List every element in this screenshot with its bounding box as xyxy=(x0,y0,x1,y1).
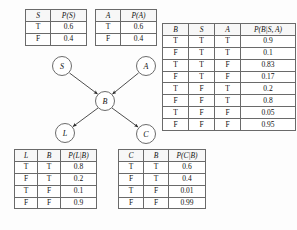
node-a-label: A xyxy=(143,62,149,71)
cell-prob: 0.8 xyxy=(61,161,97,173)
cell-prob: 0.6 xyxy=(51,21,87,33)
cell-b: T xyxy=(163,83,189,95)
cell-b: F xyxy=(163,95,189,107)
cell-prob: 0.83 xyxy=(241,59,296,71)
cell-prob: 0.4 xyxy=(121,33,157,45)
cell-s: F xyxy=(189,119,215,131)
table-row: F T F 0.17 xyxy=(163,71,296,83)
prior-table-s: S P(S) T 0.6 F 0.4 xyxy=(25,9,87,46)
column-header-a: A xyxy=(96,10,121,22)
cell-b: F xyxy=(163,119,189,131)
figure-canvas: S A B L C S P(S) T 0 xyxy=(0,0,297,230)
cell-l: T xyxy=(15,185,38,197)
cell-s: T xyxy=(189,47,215,59)
cell-b: T xyxy=(38,173,61,185)
cell-b: F xyxy=(163,71,189,83)
cell-s: T xyxy=(189,35,215,47)
cell-prob: 0.01 xyxy=(169,185,206,197)
cell-l: F xyxy=(15,173,38,185)
cell-prob: 0.05 xyxy=(241,107,296,119)
cpt-table-l: L B P(L|B) T T 0.8 F T 0.2 T F 0.1 F xyxy=(14,149,97,209)
cell-prob: 0.99 xyxy=(169,197,206,209)
cpt-table-b: B S A P(B|S, A) T T T 0.9 F T T 0.1 T T xyxy=(162,23,296,131)
table-row: T F 0.1 xyxy=(15,185,97,197)
cell-a: F xyxy=(215,71,241,83)
cell-prob: 0.4 xyxy=(169,173,206,185)
column-header-plb: P(L|B) xyxy=(61,150,97,162)
cell-s: T xyxy=(189,59,215,71)
cell-c: T xyxy=(119,185,144,197)
edge-s-to-b xyxy=(70,73,98,94)
cell-prob: 0.1 xyxy=(241,47,296,59)
column-header-b: B xyxy=(144,150,169,162)
column-header-a: A xyxy=(215,24,241,36)
cell-prob: 0.6 xyxy=(121,21,157,33)
table-row: T 0.6 xyxy=(26,21,87,33)
cell-b: T xyxy=(163,59,189,71)
column-header-b: B xyxy=(163,24,189,36)
cell-b: F xyxy=(38,185,61,197)
node-c[interactable]: C xyxy=(137,125,156,144)
edge-a-to-b xyxy=(113,73,139,94)
cell-c: F xyxy=(119,197,144,209)
cell-c: F xyxy=(119,173,144,185)
table-row: F F F 0.95 xyxy=(163,119,296,131)
cell-c: T xyxy=(119,161,144,173)
cell-s: F xyxy=(189,107,215,119)
column-header-pbsa: P(B|S, A) xyxy=(241,24,296,36)
cell-prob: 0.17 xyxy=(241,71,296,83)
cell-b: T xyxy=(144,161,169,173)
table-row: T F T 0.2 xyxy=(163,83,296,95)
node-l[interactable]: L xyxy=(56,124,75,143)
node-c-label: C xyxy=(143,130,149,139)
column-header-pa: P(A) xyxy=(121,10,157,22)
table-header-row: C B P(C|B) xyxy=(119,150,206,162)
table-row: T 0.6 xyxy=(96,21,157,33)
table-header-row: L B P(L|B) xyxy=(15,150,97,162)
table-row: T T 0.8 xyxy=(15,161,97,173)
column-header-s: S xyxy=(26,10,51,22)
cell-a: T xyxy=(215,47,241,59)
table-row: T T T 0.9 xyxy=(163,35,296,47)
cell-prob: 0.9 xyxy=(61,197,97,209)
table-header-row: B S A P(B|S, A) xyxy=(163,24,296,36)
cell-s: F xyxy=(189,95,215,107)
cell-prob: 0.2 xyxy=(61,173,97,185)
cell-a: F xyxy=(215,59,241,71)
node-b[interactable]: B xyxy=(96,92,115,111)
cell-a: T xyxy=(96,21,121,33)
cell-b: T xyxy=(144,173,169,185)
node-s-label: S xyxy=(60,62,64,71)
column-header-ps: P(S) xyxy=(51,10,87,22)
cell-a: F xyxy=(96,33,121,45)
cell-a: T xyxy=(215,95,241,107)
column-header-b: B xyxy=(38,150,61,162)
cell-prob: 0.1 xyxy=(61,185,97,197)
table-row: F 0.4 xyxy=(96,33,157,45)
cell-prob: 0.2 xyxy=(241,83,296,95)
cell-s: F xyxy=(189,83,215,95)
cell-b: T xyxy=(163,107,189,119)
table-row: F T T 0.1 xyxy=(163,47,296,59)
cell-b: F xyxy=(163,47,189,59)
table-row: F F T 0.8 xyxy=(163,95,296,107)
column-header-s: S xyxy=(189,24,215,36)
node-b-label: B xyxy=(103,97,108,106)
cell-prob: 0.95 xyxy=(241,119,296,131)
cell-l: F xyxy=(15,197,38,209)
table-row: F T 0.4 xyxy=(119,173,206,185)
cell-b: T xyxy=(38,161,61,173)
node-a[interactable]: A xyxy=(137,57,156,76)
table-row: T F 0.01 xyxy=(119,185,206,197)
node-s[interactable]: S xyxy=(53,57,72,76)
cell-prob: 0.8 xyxy=(241,95,296,107)
column-header-pcb: P(C|B) xyxy=(169,150,206,162)
table-row: T F F 0.05 xyxy=(163,107,296,119)
table-header-row: A P(A) xyxy=(96,10,157,22)
cell-prob: 0.6 xyxy=(169,161,206,173)
table-row: F F 0.9 xyxy=(15,197,97,209)
cell-a: F xyxy=(215,119,241,131)
table-row: F F 0.99 xyxy=(119,197,206,209)
cell-b: F xyxy=(38,197,61,209)
cell-s: F xyxy=(26,33,51,45)
